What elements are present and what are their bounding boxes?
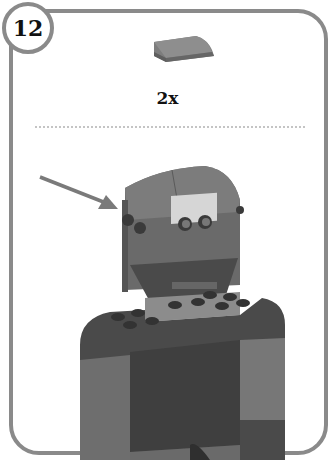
step-number-badge: 12: [2, 2, 54, 54]
robot-model-illustration: [0, 0, 335, 461]
step-number: 12: [13, 15, 44, 41]
